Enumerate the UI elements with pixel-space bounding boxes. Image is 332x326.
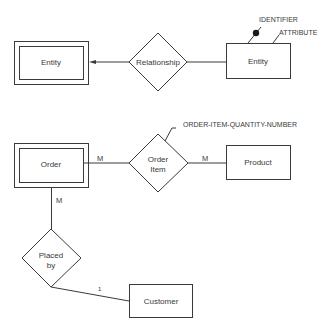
arrowhead-icon xyxy=(89,60,96,64)
entity-order: Order xyxy=(15,144,89,188)
relationship-order-item: Order Item xyxy=(129,134,188,192)
entity-product: Product xyxy=(227,146,291,180)
order-item-label-line2: Item xyxy=(150,165,166,174)
legend-weak-entity: Entity xyxy=(15,42,89,85)
cardinality-order-order-item: M xyxy=(97,154,103,163)
identifier-label: IDENTIFIER xyxy=(259,16,298,23)
relationship-label: Relationship xyxy=(136,58,181,67)
weak-entity-label: Entity xyxy=(41,58,61,67)
product-label: Product xyxy=(244,158,272,167)
cardinality-order-item-product: M xyxy=(202,154,208,163)
legend-relationship: Relationship xyxy=(129,33,187,91)
placed-by-to-customer-line xyxy=(51,287,129,301)
cardinality-placed-by-customer: 1 xyxy=(98,286,102,292)
placed-by-label-line1: Placed xyxy=(39,251,63,260)
legend-attribute: ATTRIBUTE xyxy=(273,29,318,43)
order-item-attribute-label: ORDER-ITEM-QUANTITY-NUMBER xyxy=(183,121,297,129)
placed-by-label-line2: by xyxy=(47,261,55,270)
order-item-label-line1: Order xyxy=(148,155,169,164)
identifier-dot-icon xyxy=(253,30,259,36)
entity-label: Entity xyxy=(248,57,268,66)
legend-connector-arrow xyxy=(89,60,129,64)
relationship-placed-by: Placed by xyxy=(22,229,81,287)
attribute-label: ATTRIBUTE xyxy=(279,29,318,36)
order-label: Order xyxy=(41,160,62,169)
entity-customer: Customer xyxy=(130,285,193,318)
order-item-attribute: ORDER-ITEM-QUANTITY-NUMBER xyxy=(165,121,297,141)
customer-label: Customer xyxy=(144,297,179,306)
cardinality-order-placed-by: M xyxy=(56,196,62,205)
er-diagram: Entity Relationship Entity IDENTIFIER AT… xyxy=(0,0,332,326)
legend-entity: Entity xyxy=(227,44,291,79)
